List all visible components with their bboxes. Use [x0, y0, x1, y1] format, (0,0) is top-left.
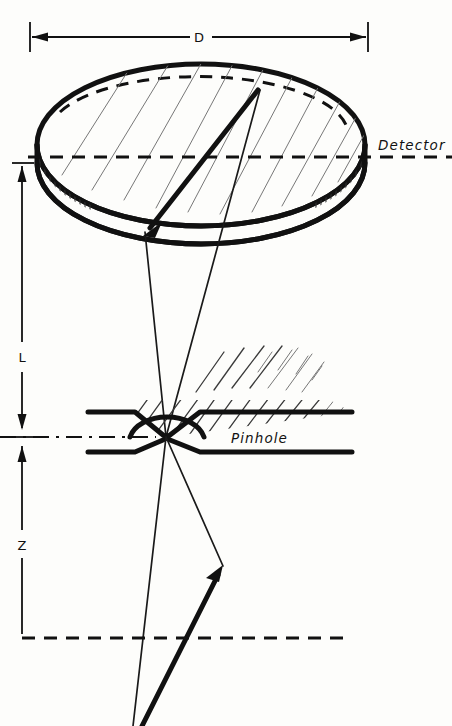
thick-ray-from-source-shaft	[142, 575, 218, 726]
L-top-arrowhead	[18, 166, 27, 182]
pinhole-plate	[88, 412, 352, 452]
cone-lower-right-ray	[166, 437, 223, 566]
diameter-left-arrowhead	[32, 33, 48, 42]
length-Z-dimension: Z	[12, 437, 34, 634]
L-bottom-arrowhead	[18, 414, 27, 430]
pinhole-label: Pinhole	[231, 430, 288, 446]
Z-label: Z	[18, 538, 27, 553]
diameter-label: D	[194, 30, 204, 45]
pinhole-detector-diagram: D	[0, 0, 452, 726]
pinhole-plate-hatching-upper-fringe	[196, 346, 324, 392]
thick-ray-from-source-arrowhead	[206, 565, 223, 582]
ray-cone-lower	[133, 437, 223, 726]
L-label: L	[18, 350, 26, 365]
diameter-dimension: D	[30, 22, 368, 52]
detector-top-face-hatching	[62, 60, 368, 214]
pinhole-lower-left-bar	[88, 440, 163, 452]
cone-upper-right-ray	[166, 90, 260, 437]
Z-top-arrowhead	[18, 446, 27, 462]
thick-ray-from-source	[142, 565, 223, 726]
cone-upper-left-ray	[145, 232, 166, 437]
detector-label: Detector	[378, 137, 446, 153]
length-L-dimension: L	[12, 163, 34, 430]
ray-cone-upper	[145, 90, 260, 437]
diameter-right-arrowhead	[350, 33, 366, 42]
figure-canvas: D	[0, 0, 452, 726]
detector-disk	[37, 60, 368, 244]
